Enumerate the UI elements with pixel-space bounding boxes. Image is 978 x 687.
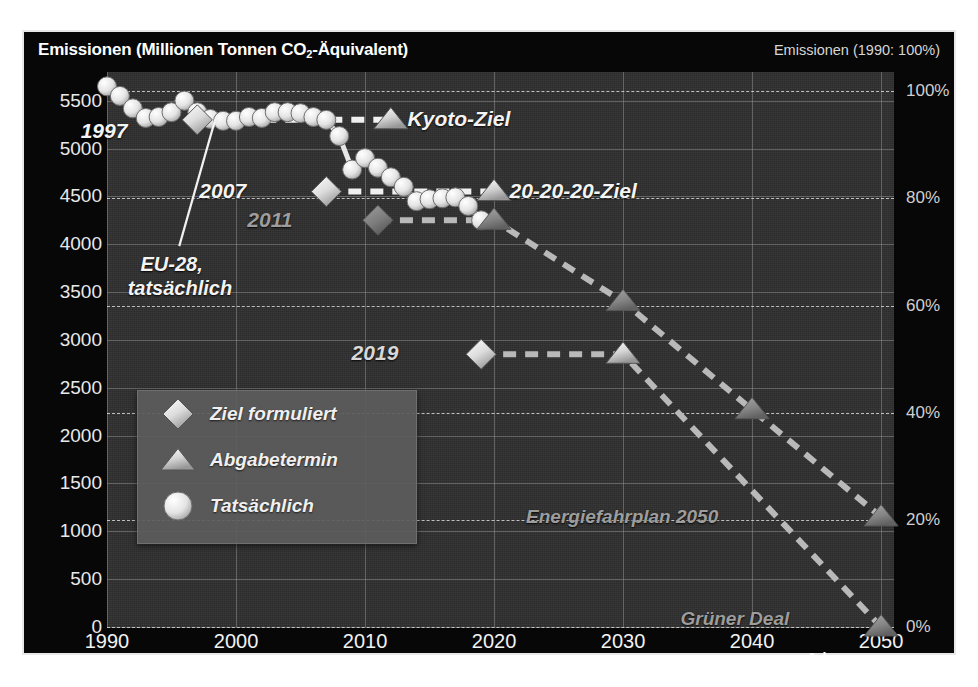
y-tick-right-40: 40% xyxy=(906,403,940,423)
label-202020: 20-20-20-Ziel xyxy=(510,179,637,203)
x-axis-title: Jahr xyxy=(807,650,837,666)
y-tick-left-3000: 3000 xyxy=(60,329,102,351)
legend-diamond xyxy=(163,399,193,429)
marker-triangle-gruener-deal-2050 xyxy=(864,615,898,636)
legend-item-diamond: Ziel formuliert xyxy=(138,391,416,437)
chart-legend: Ziel formuliertAbgabeterminTatsächlich xyxy=(137,390,417,544)
y-tick-left-1500: 1500 xyxy=(60,472,102,494)
legend-label-triangle: Abgabetermin xyxy=(210,449,338,471)
marker-triangle-energiefahrplan-2050 xyxy=(864,505,898,526)
x-tick-2030: 2030 xyxy=(601,630,646,653)
chart-title-left-prefix: Emissionen (Millionen Tonnen CO xyxy=(38,40,306,59)
label-gruener-deal: Grüner Deal xyxy=(680,608,789,630)
y-tick-right-100: 100% xyxy=(906,81,949,101)
y-tick-right-0: 0% xyxy=(906,617,931,637)
chart-title-left-sub: 2 xyxy=(306,48,312,60)
label-2011: 2011 xyxy=(247,208,292,232)
label-1997: 1997 xyxy=(81,119,128,143)
x-axis: 1990200020102020203020402050 xyxy=(107,630,894,664)
label-eu28: EU-28, xyxy=(141,253,203,276)
chart-panel: Emissionen (Millionen Tonnen CO2-Äquival… xyxy=(22,30,956,655)
y-tick-left-4000: 4000 xyxy=(60,233,102,255)
y-tick-left-2000: 2000 xyxy=(60,425,102,447)
diamond-icon xyxy=(152,393,204,435)
legend-circle xyxy=(164,492,192,520)
x-tick-1990: 1990 xyxy=(85,630,130,653)
y-tick-left-2500: 2500 xyxy=(60,377,102,399)
series-line-energiefahrplan xyxy=(378,220,881,517)
y-tick-right-60: 60% xyxy=(906,296,940,316)
y-axis-right: 0%20%40%60%80%100% xyxy=(900,72,962,627)
legend-triangle xyxy=(161,449,195,470)
chart-title-left: Emissionen (Millionen Tonnen CO2-Äquival… xyxy=(38,40,408,60)
legend-label-diamond: Ziel formuliert xyxy=(210,403,337,425)
chart-title-left-suffix: -Äquivalent) xyxy=(312,40,408,59)
label-2019: 2019 xyxy=(352,341,399,365)
y-tick-left-500: 500 xyxy=(70,568,102,590)
marker-actual-2007 xyxy=(317,110,336,129)
marker-diamond-202020-2007 xyxy=(311,177,341,207)
marker-triangle-gruener-deal-2030 xyxy=(606,342,640,363)
chart-title-right: Emissionen (1990: 100%) xyxy=(774,42,940,58)
circle-icon xyxy=(152,485,204,527)
label-kyoto: Kyoto-Ziel xyxy=(408,107,511,131)
x-tick-2040: 2040 xyxy=(730,630,775,653)
legend-item-circle: Tatsächlich xyxy=(138,483,416,529)
marker-diamond-energiefahrplan-2011 xyxy=(363,205,393,235)
y-tick-left-3500: 3500 xyxy=(60,281,102,303)
y-tick-left-4500: 4500 xyxy=(60,185,102,207)
marker-diamond-gruener-deal-2019 xyxy=(466,339,496,369)
label-eu28-2: tatsächlich xyxy=(128,276,232,299)
series-line-gruener-deal xyxy=(481,354,881,627)
label-2007: 2007 xyxy=(199,179,246,203)
legend-item-triangle: Abgabetermin xyxy=(138,437,416,483)
x-tick-2020: 2020 xyxy=(472,630,517,653)
plot-area: 1997200720112019EU-28,tatsächlichKyoto-Z… xyxy=(107,72,894,627)
x-tick-2010: 2010 xyxy=(343,630,388,653)
y-tick-right-80: 80% xyxy=(906,188,940,208)
x-tick-2000: 2000 xyxy=(214,630,259,653)
marker-actual-2008 xyxy=(330,127,349,146)
y-tick-left-5500: 5500 xyxy=(60,90,102,112)
label-energiefahrplan: Energiefahrplan 2050 xyxy=(526,506,718,528)
y-tick-right-20: 20% xyxy=(906,510,940,530)
chart-screenshot: Emissionen (Millionen Tonnen CO2-Äquival… xyxy=(0,0,978,687)
y-tick-left-1000: 1000 xyxy=(60,520,102,542)
y-axis-left: 0500100015002000250030003500400045005000… xyxy=(46,72,102,627)
triangle-icon xyxy=(152,439,204,481)
legend-label-circle: Tatsächlich xyxy=(210,495,314,517)
